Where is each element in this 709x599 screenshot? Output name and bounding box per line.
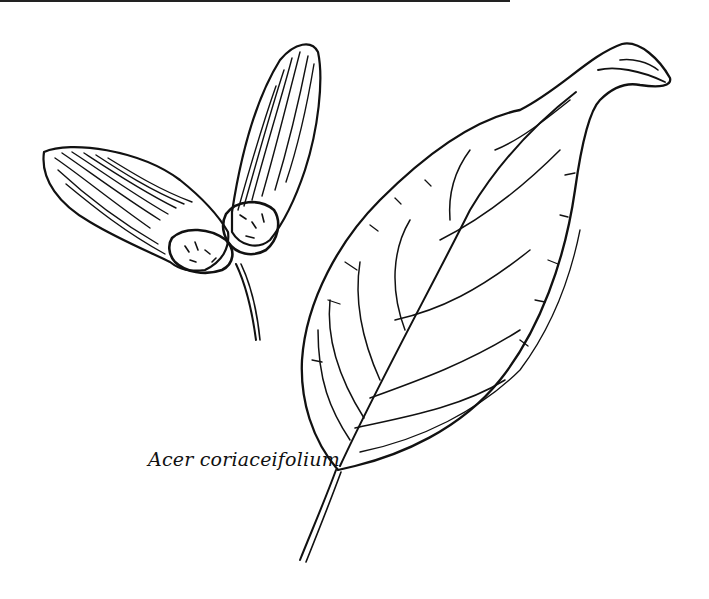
samara-icon: [43, 44, 320, 340]
leaf-icon: [300, 43, 670, 562]
species-caption: Acer coriaceifolium: [148, 448, 340, 470]
botanical-illustration: [0, 0, 709, 599]
